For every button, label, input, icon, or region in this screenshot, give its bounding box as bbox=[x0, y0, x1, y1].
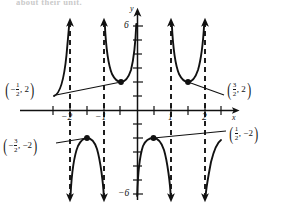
x-fraction: 1 2 bbox=[235, 126, 239, 142]
x-sign: − bbox=[8, 141, 13, 150]
lower-branch-pos2-partial bbox=[206, 140, 221, 196]
x-fraction: 3 2 bbox=[14, 138, 18, 154]
paren-open: ( bbox=[5, 80, 9, 99]
math-figure: about their unit. bbox=[0, 0, 281, 212]
lower-branch-neg2-to-neg1 bbox=[71, 138, 104, 196]
y-value: 2 bbox=[241, 85, 246, 94]
x-fraction: 3 2 bbox=[233, 82, 237, 98]
upper-branch-left-partial bbox=[54, 24, 69, 96]
x-tick-label-neg2: −2 bbox=[61, 112, 72, 122]
y-value: 2 bbox=[248, 129, 253, 138]
annotation-lower-left: ( − 3 2 , − 2 ) bbox=[2, 136, 38, 155]
paren-open: ( bbox=[227, 80, 231, 99]
lower-branch-neg1-to-pos1-left bbox=[137, 138, 171, 196]
paren-open: ( bbox=[3, 136, 7, 155]
paren-close: ) bbox=[247, 80, 251, 99]
x-tick-label-neg1: −1 bbox=[95, 112, 106, 122]
x-tick-label-pos2: 2 bbox=[202, 112, 207, 122]
leader-upper-right bbox=[188, 82, 224, 95]
y-value: 2 bbox=[27, 141, 32, 150]
x-tick-label-pos1: 1 bbox=[168, 112, 173, 122]
y-tick-label-pos6: 6 bbox=[124, 20, 129, 30]
upper-branch-pos1-to-pos2 bbox=[172, 24, 204, 82]
graph-canvas bbox=[0, 0, 281, 212]
upper-branch-neg1-to-0 bbox=[105, 24, 137, 82]
annotation-upper-right: ( 3 2 , 2 ) bbox=[226, 80, 252, 99]
annotation-lower-right: ( 1 2 , − 2 ) bbox=[228, 124, 259, 143]
paren-close: ) bbox=[254, 124, 258, 143]
y-axis-label: y bbox=[130, 4, 134, 13]
leader-upper-left bbox=[56, 82, 121, 95]
paren-open: ( bbox=[229, 124, 233, 143]
x-fraction: 1 2 bbox=[16, 82, 20, 98]
x-axis-label: x bbox=[232, 113, 236, 122]
x-sign: − bbox=[10, 85, 15, 94]
paren-close: ) bbox=[33, 136, 37, 155]
leader-lower-right bbox=[154, 131, 227, 138]
y-value: 2 bbox=[24, 85, 29, 94]
y-tick-label-neg6: −6 bbox=[118, 188, 129, 198]
annotation-upper-left: ( − 1 2 , 2 ) bbox=[4, 80, 35, 99]
leader-line-group bbox=[56, 82, 226, 143]
paren-close: ) bbox=[30, 80, 34, 99]
